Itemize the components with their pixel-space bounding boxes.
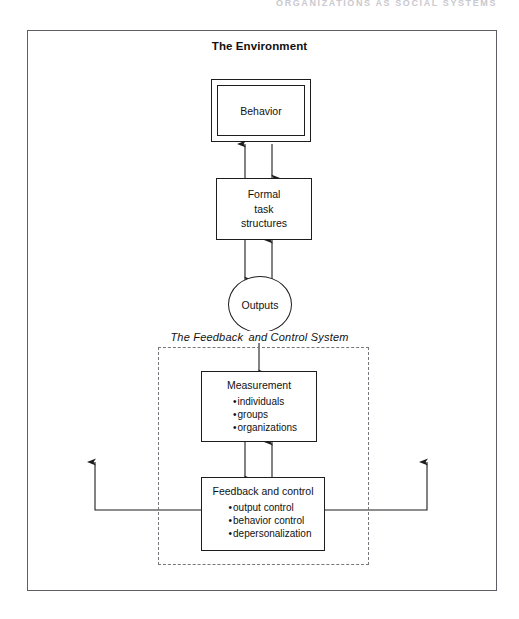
node-feedback-and-control-bullets: output control behavior control deperson… bbox=[215, 501, 312, 540]
node-outputs: Outputs bbox=[228, 276, 292, 333]
list-item: behavior control bbox=[229, 514, 312, 527]
list-item: output control bbox=[229, 501, 312, 514]
node-measurement-bullets: individuals groups organizations bbox=[221, 395, 297, 434]
node-formal-task-line2: task bbox=[241, 202, 287, 217]
node-measurement-label: Measurement bbox=[227, 378, 291, 392]
node-formal-task-line1: Formal bbox=[241, 187, 287, 202]
node-formal-task-line3: structures bbox=[241, 216, 287, 231]
subsystem-label-left: The Feedback bbox=[169, 331, 244, 343]
list-item: depersonalization bbox=[229, 527, 312, 540]
list-item: groups bbox=[233, 408, 297, 421]
node-measurement: Measurement individuals groups organizat… bbox=[201, 371, 317, 442]
node-feedback-and-control: Feedback and control output control beha… bbox=[201, 477, 325, 551]
diagram-page: ORGANIZATIONS AS SOCIAL SYSTEMS The Envi… bbox=[0, 0, 519, 619]
node-feedback-and-control-label: Feedback and control bbox=[213, 484, 314, 498]
node-behavior-label: Behavior bbox=[240, 104, 281, 118]
subsystem-label-right: and Control System bbox=[247, 331, 349, 343]
list-item: organizations bbox=[233, 421, 297, 434]
node-outputs-label: Outputs bbox=[242, 299, 279, 311]
node-behavior-inner-border: Behavior bbox=[217, 85, 305, 136]
subsystem-label: The Feedback and Control System bbox=[0, 331, 519, 343]
environment-title: The Environment bbox=[0, 40, 519, 52]
node-behavior: Behavior bbox=[211, 79, 311, 142]
running-head: ORGANIZATIONS AS SOCIAL SYSTEMS bbox=[276, 0, 497, 8]
list-item: individuals bbox=[233, 395, 297, 408]
node-formal-task-structures: Formal task structures bbox=[216, 178, 312, 240]
